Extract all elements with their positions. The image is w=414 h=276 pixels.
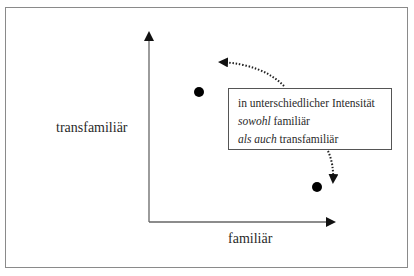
- y-axis-label: transfamiliär: [56, 120, 128, 136]
- annotation-line-3-italic: als auch: [238, 133, 277, 145]
- annotation-line-3: als auch transfamiliär: [238, 130, 391, 148]
- x-axis-label: familiär: [228, 231, 272, 247]
- annotation-box: in unterschiedlicher Intensität sowohl f…: [228, 88, 392, 150]
- dotted-arrow-up-left: [220, 62, 284, 86]
- dotted-arrow-down: [328, 151, 333, 182]
- annotation-line-2-rest: familiär: [271, 115, 310, 127]
- point-lower-right: [312, 182, 322, 192]
- point-upper-left: [194, 87, 204, 97]
- annotation-line-3-rest: transfamiliär: [277, 133, 339, 145]
- annotation-line-1: in unterschiedlicher Intensität: [238, 94, 391, 112]
- annotation-line-2: sowohl familiär: [238, 112, 391, 130]
- annotation-line-2-italic: sowohl: [238, 115, 271, 127]
